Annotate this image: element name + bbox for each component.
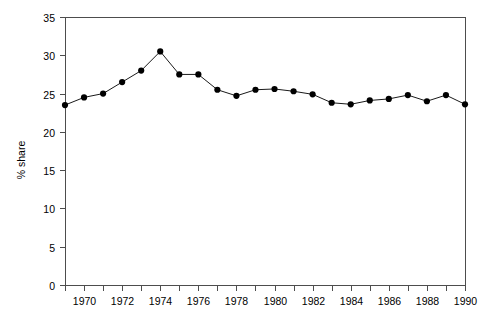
- y-tick-label: 20: [43, 127, 55, 139]
- x-tick-label: 1970: [73, 295, 97, 307]
- data-point: [348, 101, 354, 107]
- data-point: [310, 91, 316, 97]
- line-chart: 05101520253035 1970197219741976197819801…: [0, 0, 487, 325]
- x-tick-label: 1978: [225, 295, 249, 307]
- data-point: [462, 101, 468, 107]
- y-axis-title: % share: [15, 141, 27, 180]
- data-point: [138, 68, 144, 74]
- chart-container: 05101520253035 1970197219741976197819801…: [0, 0, 487, 325]
- data-point: [271, 86, 277, 92]
- y-tick-label: 10: [43, 203, 55, 215]
- data-point: [81, 94, 87, 100]
- y-tick-label: 5: [49, 242, 55, 254]
- x-tick-label: 1976: [187, 295, 211, 307]
- data-point: [214, 87, 220, 93]
- data-point: [176, 71, 182, 77]
- y-tick-label: 35: [43, 12, 55, 24]
- data-point: [443, 92, 449, 98]
- data-point: [329, 100, 335, 106]
- x-tick-label: 1982: [302, 295, 326, 307]
- data-point: [119, 79, 125, 85]
- data-point: [424, 98, 430, 104]
- data-point: [62, 102, 68, 108]
- x-tick-label: 1988: [416, 295, 440, 307]
- x-tick-label: 1972: [111, 295, 135, 307]
- y-tick-label: 30: [43, 50, 55, 62]
- data-point: [386, 96, 392, 102]
- x-tick-label: 1990: [454, 295, 478, 307]
- data-point: [195, 71, 201, 77]
- x-tick-label: 1980: [264, 295, 288, 307]
- x-tick-label: 1974: [149, 295, 173, 307]
- data-point: [405, 92, 411, 98]
- x-tick-label: 1986: [378, 295, 402, 307]
- series-markers: [62, 48, 468, 108]
- data-point: [290, 88, 296, 94]
- data-point: [157, 48, 163, 54]
- data-point: [367, 97, 373, 103]
- data-point: [100, 90, 106, 96]
- y-axis-ticks: 05101520253035: [43, 12, 65, 292]
- y-tick-label: 0: [49, 280, 55, 292]
- data-point: [233, 93, 239, 99]
- x-axis-ticks: 1970197219741976197819801982198419861988…: [66, 286, 478, 308]
- plot-frame: [66, 18, 466, 286]
- data-series: [62, 48, 468, 108]
- y-axis-title-group: % share: [15, 141, 27, 180]
- x-tick-label: 1984: [340, 295, 364, 307]
- series-line: [65, 51, 465, 105]
- data-point: [252, 87, 258, 93]
- y-tick-label: 15: [43, 165, 55, 177]
- y-tick-label: 25: [43, 89, 55, 101]
